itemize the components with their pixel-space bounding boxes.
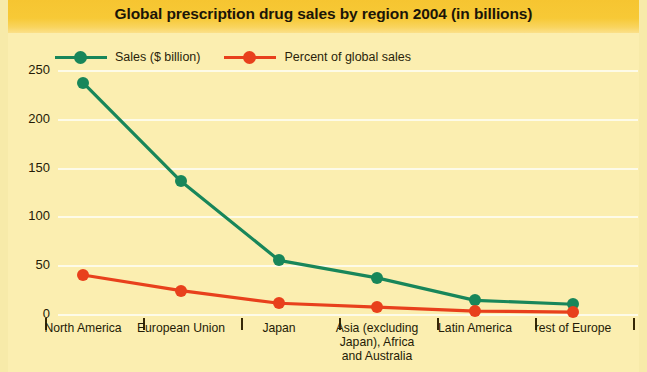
chart-screenshot: Global prescription drug sales by region… <box>0 0 647 372</box>
legend-dot-sales <box>74 51 87 64</box>
legend-line-marker-percent <box>224 56 276 59</box>
legend-line-marker-sales <box>55 56 107 59</box>
legend-dot-percent <box>243 51 256 64</box>
plot-background <box>8 33 639 372</box>
legend-label-percent: Percent of global sales <box>284 50 410 64</box>
chart-title: Global prescription drug sales by region… <box>8 5 639 23</box>
title-banner: Global prescription drug sales by region… <box>8 0 639 33</box>
legend-item-percent: Percent of global sales <box>224 50 410 64</box>
legend-label-sales: Sales ($ billion) <box>115 50 200 64</box>
right-frame-edge <box>639 0 647 372</box>
legend-item-sales: Sales ($ billion) <box>55 50 200 64</box>
chart-legend: Sales ($ billion) Percent of global sale… <box>55 48 411 66</box>
